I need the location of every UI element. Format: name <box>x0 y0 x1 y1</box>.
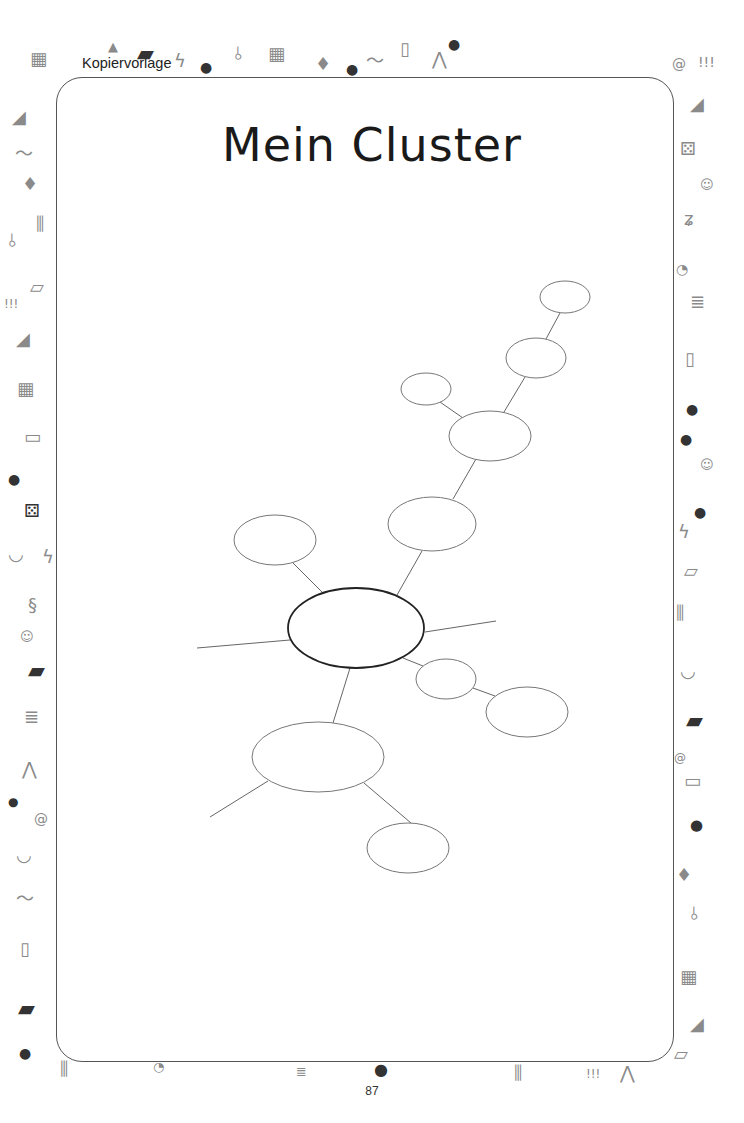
laurel-icon: ◡ <box>8 545 24 563</box>
compass-icon: ⋀ <box>620 1064 635 1082</box>
eraser-icon: ▱ <box>674 1045 688 1063</box>
medal-icon: ● <box>8 472 20 486</box>
exclamation-icon: !!! <box>586 1068 600 1080</box>
shoe-icon: ◢ <box>16 330 30 348</box>
jar-icon: ▯ <box>20 940 30 958</box>
shoe-icon: ◢ <box>690 95 704 113</box>
computer-icon: ▭ <box>684 772 701 790</box>
exclamation-icon: !!! <box>698 55 715 69</box>
percent-balloon-icon: ● <box>346 62 358 76</box>
graduation-cap-icon: ♦ <box>676 866 692 884</box>
mustache-icon: ～ <box>15 145 33 163</box>
connector-line <box>210 781 268 817</box>
exclamation-icon: !!! <box>4 298 18 310</box>
paperclip-icon: ⫰ <box>234 45 242 63</box>
cluster-node-middle <box>449 411 531 461</box>
medal-e-icon: ● <box>694 505 706 519</box>
connector-line <box>397 551 422 595</box>
medal-m-icon: ● <box>19 1046 31 1060</box>
eraser-icon: ▱ <box>30 278 44 296</box>
connector-line <box>546 313 560 339</box>
medal-m-icon: ● <box>686 402 698 416</box>
cluster-node-top-right <box>540 281 590 313</box>
mustache-icon: ～ <box>366 52 384 70</box>
spiral-icon: @ <box>672 57 686 71</box>
puzzle-icon: ▦ <box>680 968 697 986</box>
connector-line <box>293 563 323 593</box>
briefcase-icon: ▰ <box>686 710 703 732</box>
hat-icon: ▲ <box>108 40 118 53</box>
dice-icon: ⚄ <box>24 502 40 520</box>
connector-line <box>403 658 423 666</box>
lightning-icon: ϟ <box>174 52 186 70</box>
medal-icon: ● <box>680 432 692 446</box>
lightning-icon: ϟ <box>42 548 54 566</box>
briefcase-icon: ▰ <box>18 998 35 1020</box>
cluster-center-node <box>288 588 424 668</box>
medal-icon: ● <box>448 37 460 51</box>
dice-icon: ⚄ <box>680 140 696 158</box>
medal-icon: ● <box>200 60 212 74</box>
cluster-node-small-right <box>416 659 476 699</box>
percent-balloon-icon: ● <box>374 1062 388 1078</box>
book-stack-icon: ≣ <box>24 708 39 726</box>
page-number: 87 <box>0 1084 744 1098</box>
connector-line <box>364 783 411 823</box>
alarm-clock-icon: ◔ <box>153 1060 164 1073</box>
pencil-zigzag-icon: ʑ <box>684 210 693 228</box>
connector-line <box>425 621 496 632</box>
medal-e-icon: ● <box>8 796 18 808</box>
kid-icon: ☺ <box>20 630 34 643</box>
cluster-node-left <box>234 515 316 565</box>
puzzle-icon: ▦ <box>30 50 47 68</box>
graduation-cap-icon: ♦ <box>22 175 38 193</box>
graduation-cap-icon: ♦ <box>315 55 331 73</box>
compass-icon: ⋀ <box>22 760 37 778</box>
snake-icon: § <box>28 596 37 614</box>
cluster-node-big-lower-left <box>252 722 384 792</box>
cluster-node-upper-right <box>506 338 566 378</box>
cluster-node-small-upper-left <box>401 373 451 405</box>
compass-icon: ⋀ <box>432 50 447 68</box>
laurel-icon: ◡ <box>16 846 32 864</box>
paperclip-icon: ⫰ <box>690 905 698 923</box>
cluster-node-bottom <box>367 823 449 873</box>
eraser-icon: ▱ <box>684 562 698 580</box>
pencils-icon: ⫼ <box>60 1060 68 1078</box>
puzzle-icon: ▦ <box>268 45 285 63</box>
percent-balloon-icon: ● <box>690 818 703 833</box>
kid-icon: ☺ <box>700 178 714 191</box>
connector-line <box>504 377 525 412</box>
puzzle-icon: ▦ <box>17 380 34 398</box>
computer-icon: ▭ <box>24 428 41 446</box>
pencil-cup-icon: ⫼ <box>676 604 684 622</box>
spiral-icon: @ <box>674 752 686 764</box>
connector-line <box>197 640 290 648</box>
shoe-icon: ◢ <box>690 1015 704 1033</box>
briefcase-icon: ▰ <box>28 660 45 682</box>
mustache-icon: ～ <box>16 890 34 908</box>
cluster-node-right <box>486 687 568 737</box>
alarm-clock-icon: ◔ <box>676 262 688 276</box>
shoe-icon: ◢ <box>12 108 26 126</box>
jar-icon: ▯ <box>685 350 695 368</box>
connector-line <box>333 668 350 723</box>
connector-line <box>473 688 495 696</box>
connector-line <box>440 402 463 418</box>
cluster-diagram <box>0 0 744 1123</box>
laurel-icon: ◡ <box>680 662 696 680</box>
lightning-icon: ϟ <box>678 523 690 541</box>
pencil-cup-icon: ⫼ <box>514 1064 522 1082</box>
book-stack-icon: ≣ <box>296 1065 307 1078</box>
spiral-icon: @ <box>34 812 48 826</box>
connector-line <box>453 459 476 499</box>
paperclip-icon: ⫰ <box>8 232 16 250</box>
briefcase-icon: ▰ <box>137 43 154 65</box>
book-stack-icon: ≣ <box>690 293 705 311</box>
jar-icon: ▯ <box>400 40 410 58</box>
pencils-icon: ⫼ <box>36 215 44 233</box>
kid-icon: ☺ <box>700 458 714 471</box>
cluster-node-lower-middle <box>388 497 476 551</box>
